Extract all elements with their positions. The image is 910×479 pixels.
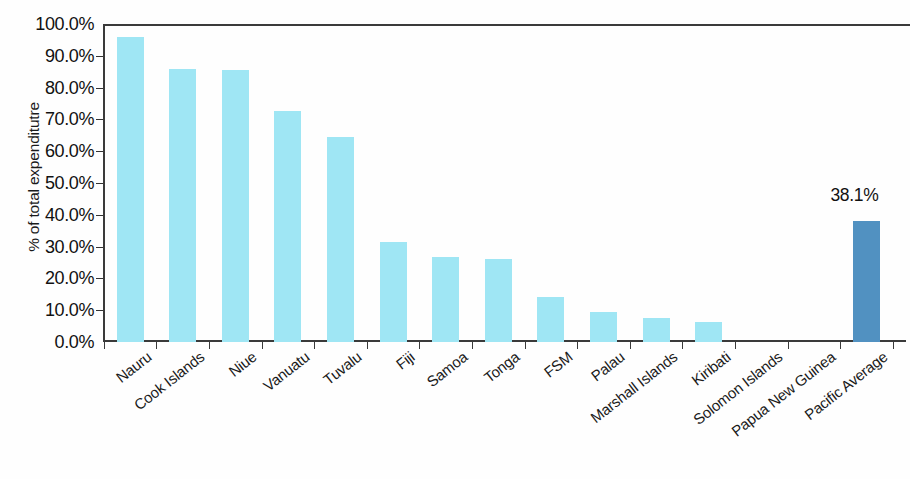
bar-data-label: 38.1%: [830, 185, 878, 206]
y-tick-label: 0.0%: [0, 332, 94, 353]
y-tick-mark: [96, 310, 103, 311]
bar: [274, 111, 301, 342]
bar: [117, 37, 144, 342]
chart-screenshot: % of total expenditutre 100.0%90.0%80.0%…: [0, 0, 910, 479]
x-axis-label: Samoa: [423, 348, 470, 390]
x-axis-label: Tuvalu: [320, 348, 365, 388]
y-tick-mark: [96, 183, 103, 184]
x-axis-label: Kiribati: [688, 348, 733, 389]
y-tick-mark: [96, 247, 103, 248]
bar: [485, 259, 512, 342]
y-tick-label: 60.0%: [0, 141, 94, 162]
y-tick-mark: [96, 151, 103, 152]
bar: [853, 221, 880, 342]
bar: [222, 70, 249, 342]
x-axis-label: Vanuatu: [260, 348, 313, 394]
y-tick-label: 70.0%: [0, 109, 94, 130]
bar: [695, 322, 722, 342]
bar: [590, 312, 617, 342]
x-axis-label: Palau: [588, 348, 628, 384]
x-axis-labels: NauruCook IslandsNiueVanuatuTuvaluFijiSa…: [103, 348, 910, 479]
x-axis-label: Solomon Islands: [690, 348, 785, 428]
x-axis-label: Niue: [225, 348, 259, 380]
bar: [169, 69, 196, 342]
y-tick-label: 90.0%: [0, 45, 94, 66]
x-axis-label: Fiji: [393, 348, 418, 373]
y-tick-mark: [96, 56, 103, 57]
y-tick-label: 40.0%: [0, 204, 94, 225]
bar: [432, 257, 459, 342]
bar: [327, 137, 354, 342]
y-tick-mark: [96, 88, 103, 89]
y-axis-ticks: 100.0%90.0%80.0%70.0%60.0%50.0%40.0%30.0…: [0, 0, 100, 479]
y-tick-label: 30.0%: [0, 236, 94, 257]
y-tick-label: 20.0%: [0, 268, 94, 289]
y-tick-label: 100.0%: [0, 14, 94, 35]
bars-layer: [103, 24, 910, 342]
y-tick-mark: [96, 119, 103, 120]
bar: [380, 242, 407, 342]
x-axis-label: FSM: [540, 348, 575, 381]
x-axis-label: Nauru: [113, 348, 155, 386]
y-tick-mark: [96, 215, 103, 216]
x-axis-label: Tonga: [481, 348, 523, 386]
y-tick-label: 10.0%: [0, 300, 94, 321]
y-tick-mark: [96, 278, 103, 279]
y-tick-label: 50.0%: [0, 173, 94, 194]
bar: [537, 297, 564, 342]
y-tick-label: 80.0%: [0, 77, 94, 98]
bar: [643, 318, 670, 342]
plot-area: [103, 24, 910, 342]
